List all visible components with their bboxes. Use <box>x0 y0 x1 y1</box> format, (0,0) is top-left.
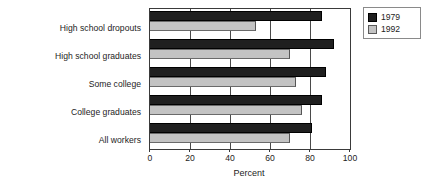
bar-1992-some-college <box>150 77 296 87</box>
category-axis-labels: High school dropouts High school graduat… <box>0 8 141 148</box>
bar-1979-high-school-graduates <box>150 39 334 49</box>
light-swatch-icon <box>368 25 377 34</box>
tick-mark-20 <box>189 149 190 152</box>
category-label: High school graduates <box>0 51 141 61</box>
plot-area <box>149 8 351 150</box>
category-label: Some college <box>0 79 141 89</box>
chart-legend: 1979 1992 <box>363 7 421 39</box>
x-tick-label: 80 <box>305 153 315 163</box>
legend-entry-1992: 1992 <box>368 23 416 35</box>
bar-1992-all-workers <box>150 133 290 143</box>
bar-1979-high-school-dropouts <box>150 11 322 21</box>
tick-mark-0 <box>149 149 150 152</box>
tick-mark-80 <box>309 149 310 152</box>
category-label: High school dropouts <box>0 23 141 33</box>
plot-inner <box>150 9 350 149</box>
bar-1979-some-college <box>150 67 326 77</box>
x-axis-title: Percent <box>149 168 349 179</box>
tick-mark-40 <box>229 149 230 152</box>
bar-1992-college-graduates <box>150 105 302 115</box>
legend-label: 1992 <box>381 24 400 34</box>
x-tick-label: 60 <box>265 153 275 163</box>
bar-1992-high-school-graduates <box>150 49 290 59</box>
x-tick-label: 0 <box>148 153 153 163</box>
tick-mark-60 <box>269 149 270 152</box>
x-tick-label: 40 <box>225 153 235 163</box>
category-label: College graduates <box>0 107 141 117</box>
legend-entry-1979: 1979 <box>368 11 416 23</box>
legend-label: 1979 <box>381 12 400 22</box>
bar-chart: High school dropouts High school graduat… <box>0 0 429 189</box>
bar-1979-all-workers <box>150 123 312 133</box>
tick-mark-100 <box>349 149 350 152</box>
category-label: All workers <box>0 135 141 145</box>
dark-swatch-icon <box>368 13 377 22</box>
bar-1992-high-school-dropouts <box>150 21 256 31</box>
bar-1979-college-graduates <box>150 95 322 105</box>
x-tick-label: 100 <box>343 153 357 163</box>
x-tick-label: 20 <box>185 153 195 163</box>
